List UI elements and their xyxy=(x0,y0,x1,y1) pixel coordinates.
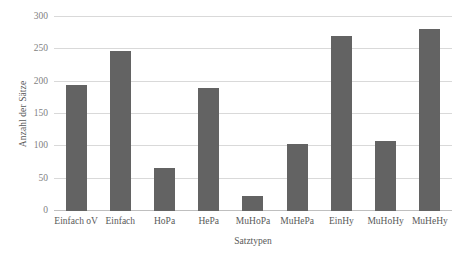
bar-slot xyxy=(364,17,408,211)
bar-slot xyxy=(187,17,231,211)
x-axis-tick-label: MuHoHy xyxy=(364,216,408,226)
y-axis-tick-label: 200 xyxy=(34,76,48,86)
bar-slot xyxy=(231,17,275,211)
bar xyxy=(287,144,308,211)
bar-chart-figure: Anzahl der Sätze 050100150200250300 Einf… xyxy=(0,0,466,265)
x-axis-tick-label: EinHy xyxy=(319,216,363,226)
x-axis-title: Satztypen xyxy=(54,236,452,246)
y-axis-tick-label: 150 xyxy=(34,108,48,118)
y-axis-tick-label: 300 xyxy=(34,11,48,21)
bars-layer xyxy=(54,17,452,211)
y-axis-tick-label: 100 xyxy=(34,140,48,150)
bar xyxy=(242,196,263,211)
x-axis-tick-label: Einfach oV xyxy=(54,216,98,226)
bar xyxy=(419,29,440,211)
bar xyxy=(66,85,87,211)
x-axis-tick-label: HoPa xyxy=(142,216,186,226)
bar-slot xyxy=(142,17,186,211)
bar-slot xyxy=(54,17,98,211)
x-axis-tick-label: MuHePa xyxy=(275,216,319,226)
bar xyxy=(154,168,175,211)
bar xyxy=(198,88,219,211)
bar-slot xyxy=(319,17,363,211)
y-axis-tick-label: 0 xyxy=(43,205,48,215)
x-axis-tick-label: Einfach xyxy=(98,216,142,226)
y-axis-tick-label: 50 xyxy=(39,173,49,183)
y-axis-title: Anzahl der Sätze xyxy=(16,17,30,211)
bar-slot xyxy=(98,17,142,211)
plot-area: 050100150200250300 xyxy=(54,17,452,211)
x-axis-tick-label: MuHeHy xyxy=(408,216,452,226)
bar-slot xyxy=(408,17,452,211)
x-axis-tick-label: HePa xyxy=(187,216,231,226)
x-axis-tick-label: MuHoPa xyxy=(231,216,275,226)
x-axis-tick-labels: Einfach oVEinfachHoPaHePaMuHoPaMuHePaEin… xyxy=(54,216,452,226)
bar xyxy=(331,36,352,211)
bar xyxy=(375,141,396,211)
bar xyxy=(110,51,131,211)
bar-slot xyxy=(275,17,319,211)
y-axis-tick-label: 250 xyxy=(34,43,48,53)
